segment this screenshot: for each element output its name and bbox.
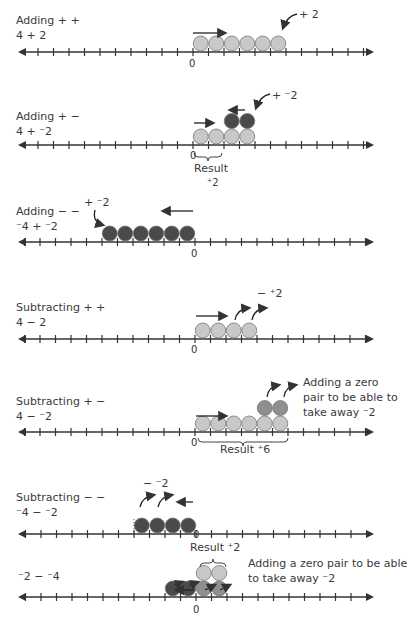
- counter-chip: [224, 129, 239, 144]
- counter-chip: [242, 416, 257, 431]
- panel-3-expression: ⁻4 + ⁻2: [16, 220, 58, 234]
- counter-chip: [211, 323, 226, 338]
- counter-chip: [273, 401, 288, 416]
- panel-1-zero-label: 0: [189, 58, 195, 69]
- panel-2-expression: 4 + ⁻2: [16, 125, 52, 139]
- curved-arrow-icon: [158, 495, 172, 507]
- number-line-3: [18, 238, 374, 246]
- curved-arrow-icon: [284, 385, 296, 397]
- panel-4-title: Subtracting + +: [16, 301, 105, 315]
- counter-chip: [212, 581, 227, 596]
- panel-5-expression: 4 − ⁻2: [16, 410, 52, 424]
- counter-chip: [193, 36, 208, 51]
- counter-chip: [209, 36, 224, 51]
- result-brace: [194, 153, 222, 161]
- panel-4-expression: 4 − 2: [16, 316, 46, 330]
- counter-chip: [195, 416, 210, 431]
- curved-arrow-icon: [252, 308, 266, 320]
- panel-5-title: Subtracting + −: [16, 395, 105, 409]
- panel-3-title: Adding − −: [16, 205, 80, 219]
- counter-chip: [165, 518, 180, 533]
- counter-chip: [149, 226, 164, 241]
- counter-chip: [226, 323, 241, 338]
- panel-5-zero-label: 0: [191, 437, 197, 448]
- panel-2-result-value: ⁺2: [207, 176, 219, 190]
- curved-arrow-icon: [94, 210, 103, 225]
- panel-6-expression: ⁻4 − ⁻2: [16, 506, 58, 520]
- panel-1-expression: 4 + 2: [16, 29, 46, 43]
- number-line-4: [18, 335, 374, 343]
- panel-3-zero-label: 0: [191, 248, 197, 259]
- panel-7-expression: ⁻2 − ⁻4: [18, 570, 60, 584]
- counter-chip: [164, 226, 179, 241]
- panel-1-annotation: + 2: [299, 8, 319, 22]
- counter-chip: [226, 416, 241, 431]
- counter-chip: [271, 36, 286, 51]
- counter-chip: [195, 323, 210, 338]
- panel-2-result-label: Result: [194, 162, 228, 176]
- panel-3-annotation: + ⁻2: [84, 196, 110, 210]
- panel-7-zero-label: 0: [193, 604, 199, 615]
- panel-1-title: Adding + +: [16, 14, 80, 28]
- panel-7-annotation-line-2: to take away ⁻2: [248, 572, 335, 586]
- panel-5-annotation-line-3: take away ⁻2: [303, 406, 376, 420]
- counter-chip: [224, 36, 239, 51]
- panel-5-annotation-line-2: pair to be able to: [303, 391, 398, 405]
- counter-chip: [240, 129, 255, 144]
- panel-6-annotation: − ⁻2: [143, 477, 169, 491]
- counter-chip: [255, 36, 270, 51]
- number-line-7: [18, 593, 374, 601]
- panel-7-result-label: Result ⁺2: [190, 541, 240, 555]
- counter-chip: [134, 518, 149, 533]
- number-line-5: [18, 428, 374, 436]
- panel-4-zero-label: 0: [191, 344, 197, 355]
- panel-2-zero-label: 0: [190, 150, 196, 161]
- curved-arrow-icon: [267, 385, 279, 397]
- counter-chip: [133, 226, 148, 241]
- panel-6-zero-label: 0: [193, 529, 199, 540]
- panel-4-annotation: − ⁺2: [257, 287, 283, 301]
- counter-chip: [257, 416, 272, 431]
- counter-chip: [224, 114, 239, 129]
- counter-chip: [150, 518, 165, 533]
- curved-arrow-icon: [235, 308, 249, 320]
- counter-chip: [196, 566, 211, 581]
- panel-2-title: Adding + −: [16, 110, 80, 124]
- counter-chip: [193, 129, 208, 144]
- counter-chip: [242, 323, 257, 338]
- panel-5-result-label: Result ⁺6: [220, 443, 270, 457]
- panel-7-annotation-line-1: Adding a zero pair to be able: [248, 557, 407, 571]
- counter-chip: [240, 36, 255, 51]
- counter-chip: [257, 401, 272, 416]
- curved-arrow-icon: [140, 495, 154, 507]
- curved-arrow-icon: [283, 14, 297, 28]
- counter-chip: [209, 129, 224, 144]
- counter-chip: [180, 226, 195, 241]
- panel-2-annotation: + ⁻2: [272, 89, 298, 103]
- counter-chip: [212, 566, 227, 581]
- counter-chip: [240, 114, 255, 129]
- counter-chip: [211, 416, 226, 431]
- panel-6-title: Subtracting − −: [16, 491, 105, 505]
- counter-chip: [118, 226, 133, 241]
- counter-chip: [102, 226, 117, 241]
- curved-arrow-icon: [256, 94, 270, 108]
- panel-5-annotation-line-1: Adding a zero: [303, 376, 379, 390]
- counter-chip: [273, 416, 288, 431]
